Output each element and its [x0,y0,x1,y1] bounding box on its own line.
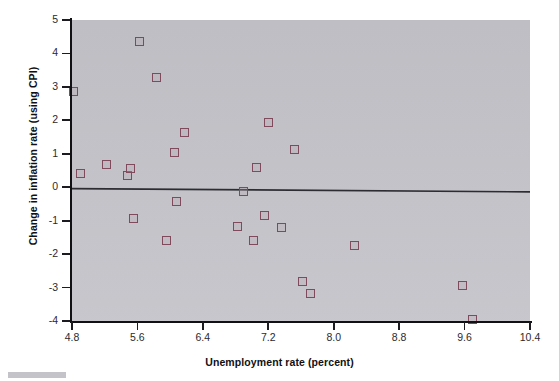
data-point-marker [129,214,138,223]
y-axis-tick [62,220,70,222]
y-axis-tick-label: 0 [36,181,58,191]
data-point-marker [180,128,189,137]
y-axis-tick [62,287,70,289]
y-axis-tick-label: -4 [36,315,58,325]
data-point-marker [249,236,258,245]
x-axis-title: Unemployment rate (percent) [0,356,559,368]
y-axis-line [70,18,72,323]
x-axis-tick-label: 5.6 [117,332,157,343]
plot-background [72,20,530,321]
x-axis-tick-label: 6.4 [183,332,223,343]
x-axis-tick [202,322,204,330]
y-axis-tick-label: -2 [36,248,58,258]
x-axis-tick-label: 10.4 [510,332,550,343]
y-axis-tick [62,53,70,55]
data-point-marker [458,281,467,290]
y-axis-tick [62,119,70,121]
y-axis-tick [62,320,70,322]
x-axis-tick [267,322,269,330]
data-point-marker [350,241,359,250]
y-axis-tick-label: -1 [36,215,58,225]
data-point-marker [239,187,248,196]
x-axis-tick-label: 9.6 [445,332,485,343]
regression-trend-line [72,20,530,321]
y-axis-title: Change in inflation rate (using CPI) [27,31,39,281]
y-axis-tick [62,86,70,88]
x-axis-tick [464,322,466,330]
data-point-marker [306,289,315,298]
data-point-marker [277,223,286,232]
data-point-marker [233,222,242,231]
x-axis-tick [71,322,73,330]
y-axis-tick-label: 4 [36,47,58,57]
y-axis-tick [62,153,70,155]
scan-edge-artifact [8,372,66,378]
x-axis-tick [398,322,400,330]
y-axis-tick-label: 5 [36,14,58,24]
y-axis-tick-label: -3 [36,282,58,292]
data-point-marker [102,160,111,169]
y-axis-tick-label: 3 [36,81,58,91]
y-axis-tick [62,253,70,255]
scatter-plot-figure: 543210-1-2-3-4 4.85.66.47.28.08.89.610.4… [0,0,559,381]
x-axis-tick [137,322,139,330]
x-axis-line [70,321,532,323]
x-axis-tick [333,322,335,330]
y-axis-tick-label: 1 [36,148,58,158]
x-axis-tick-label: 8.8 [379,332,419,343]
data-point-marker [135,37,144,46]
data-point-marker [172,197,181,206]
y-axis-tick [62,186,70,188]
data-point-marker [170,148,179,157]
x-axis-tick-label: 4.8 [52,332,92,343]
data-point-marker [252,163,261,172]
data-point-marker [298,277,307,286]
data-point-marker [126,164,135,173]
data-point-marker [162,236,171,245]
data-point-marker [264,118,273,127]
data-point-marker [152,73,161,82]
x-axis-tick [529,322,531,330]
y-axis-tick [62,19,70,21]
data-point-marker [76,169,85,178]
data-point-marker [260,211,269,220]
x-axis-tick-label: 7.2 [248,332,288,343]
y-axis-tick-label: 2 [36,114,58,124]
plot-area [72,20,530,321]
data-point-marker [290,145,299,154]
x-axis-tick-label: 8.0 [314,332,354,343]
